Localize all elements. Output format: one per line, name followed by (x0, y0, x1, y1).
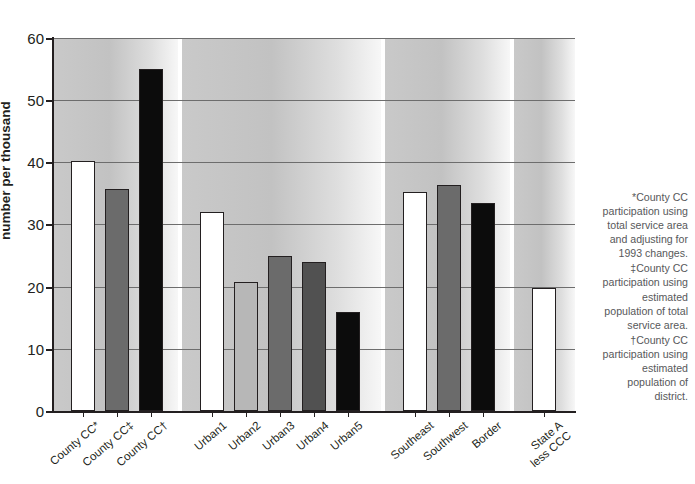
bar-state-a-less-ccc (532, 288, 556, 411)
y-axis-title: number per thousand (0, 101, 13, 240)
bar-urban4 (302, 262, 326, 411)
bar-chart-figure: 60 50 40 30 20 10 0 number per thousand … (0, 0, 695, 484)
x-label-border: Border (470, 419, 505, 451)
footnotes: *County CC participation using total ser… (596, 190, 688, 404)
x-label-state-a-less-ccc: State A less CCC (520, 419, 574, 470)
x-label-urban2: Urban2 (226, 419, 263, 453)
bar-urban2 (234, 282, 258, 411)
x-tick-9 (449, 412, 450, 417)
y-tick-label-10: 10 (27, 342, 44, 357)
bar-border (471, 203, 495, 411)
x-tick-4 (246, 412, 247, 417)
x-tick-6 (314, 412, 315, 417)
y-tick-label-0: 0 (36, 404, 44, 419)
bar-urban1 (200, 212, 224, 411)
bar-county-cc-dagger2 (105, 189, 129, 411)
x-tick-1 (117, 412, 118, 417)
footnote-dagger: †County CC participation using estimated… (596, 333, 688, 403)
y-tick-label-60: 60 (27, 31, 44, 46)
x-tick-3 (212, 412, 213, 417)
bar-county-cc-dagger (139, 69, 163, 412)
gridline-40 (53, 162, 575, 163)
bar-southeast (403, 192, 427, 411)
bar-urban5 (336, 312, 360, 412)
footnote-dagger2: ‡County CC participation using estimated… (596, 261, 688, 331)
x-tick-10 (483, 412, 484, 417)
y-tick-labels: 60 50 40 30 20 10 0 (0, 0, 53, 484)
x-label-urban3: Urban3 (260, 419, 297, 453)
gridline-50 (53, 100, 575, 101)
x-tick-2 (151, 412, 152, 417)
x-label-urban5: Urban5 (328, 419, 365, 453)
x-tick-0 (83, 412, 84, 417)
y-tick-label-30: 30 (27, 217, 44, 232)
plot-area (53, 38, 575, 411)
bar-county-cc-star (71, 161, 95, 412)
x-tick-8 (415, 412, 416, 417)
gridline-30 (53, 224, 575, 225)
y-tick-label-40: 40 (27, 155, 44, 170)
gridline-60 (53, 38, 575, 39)
y-tick-label-50: 50 (27, 93, 44, 108)
x-label-urban4: Urban4 (294, 419, 331, 453)
x-tick-11 (544, 412, 545, 417)
bar-urban3 (268, 256, 292, 411)
x-tick-7 (348, 412, 349, 417)
y-tick-label-20: 20 (27, 280, 44, 295)
x-label-urban1: Urban1 (192, 419, 229, 453)
bar-southwest (437, 185, 461, 411)
x-tick-5 (280, 412, 281, 417)
footnote-star: *County CC participation using total ser… (596, 190, 688, 260)
